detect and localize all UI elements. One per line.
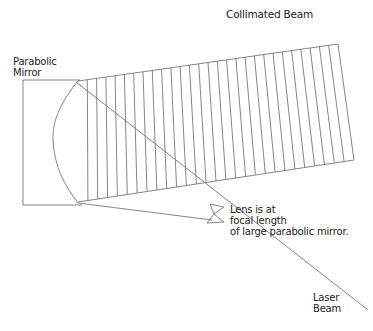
laser-label-line: Beam: [313, 303, 341, 314]
hatch-line: [199, 64, 206, 183]
hatch-line: [115, 76, 117, 196]
mirror-frame: [23, 80, 82, 205]
mirror-label-line: Mirror: [13, 67, 57, 78]
hatch-line: [208, 63, 216, 182]
hatch-line: [143, 72, 147, 192]
focal-ray-lower: [78, 203, 212, 220]
hatch-line: [171, 68, 177, 187]
hatch-line: [254, 56, 265, 174]
lens-icon: [207, 204, 224, 223]
hatch-line: [87, 80, 88, 201]
laser-beam-label: Laser Beam: [313, 292, 341, 314]
hatch-line: [189, 65, 196, 184]
hatch-line: [264, 55, 275, 172]
hatch-line: [227, 60, 236, 178]
hatch-line: [329, 45, 344, 161]
collimated-beam-label: Collimated Beam: [226, 9, 313, 20]
hatch-line: [245, 57, 255, 175]
hatch-line: [134, 73, 137, 193]
hatch-line: [273, 53, 285, 170]
parabolic-mirror-label: Parabolic Mirror: [13, 56, 57, 78]
beam-hatching: [87, 45, 344, 200]
hatch-line: [282, 52, 295, 169]
optics-diagram: [0, 0, 373, 331]
hatch-line: [106, 77, 108, 198]
hatch-line: [152, 70, 157, 190]
hatch-line: [236, 59, 246, 177]
laser-label-line: Laser: [313, 292, 341, 303]
lens-note-line: Lens is at: [230, 204, 348, 215]
lens-note-line: focal length: [230, 215, 348, 226]
hatch-line: [124, 74, 127, 194]
hatch-line: [162, 69, 167, 188]
parabolic-mirror-surface: [53, 80, 79, 203]
hatch-line: [217, 61, 226, 179]
lens-note-label: Lens is at focal length of large parabol…: [230, 204, 348, 237]
mirror-label-line: Parabolic: [13, 56, 57, 67]
lens-note-line: of large parabolic mirror.: [230, 226, 348, 237]
hatch-line: [97, 78, 98, 199]
